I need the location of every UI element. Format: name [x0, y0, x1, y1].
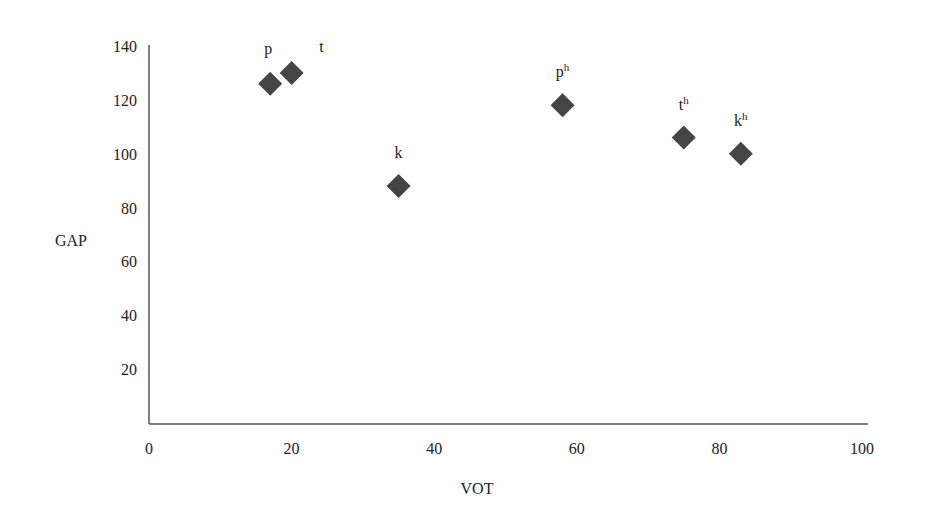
- y-tick-label: 60: [121, 253, 137, 270]
- x-tick-label: 0: [145, 440, 153, 457]
- x-tick-label: 100: [850, 440, 874, 457]
- data-points: [258, 61, 753, 198]
- x-tick-label: 60: [569, 440, 585, 457]
- point-labels: ptkphthkh: [264, 38, 748, 161]
- axes: [149, 45, 868, 424]
- y-tick-labels: 20406080100120140: [113, 38, 137, 378]
- y-tick-label: 100: [113, 146, 137, 163]
- point-label: kh: [734, 110, 748, 129]
- y-tick-label: 140: [113, 38, 137, 55]
- y-axis-label: GAP: [55, 232, 87, 249]
- y-tick-label: 20: [121, 361, 137, 378]
- diamond-marker: [387, 174, 411, 198]
- x-tick-label: 80: [711, 440, 727, 457]
- x-tick-label: 40: [426, 440, 442, 457]
- point-label: p: [264, 40, 272, 58]
- y-tick-label: 120: [113, 92, 137, 109]
- point-label: ph: [556, 61, 570, 81]
- diamond-marker: [729, 142, 753, 166]
- diamond-marker: [672, 126, 696, 150]
- point-label: th: [679, 94, 689, 113]
- point-label: k: [395, 144, 403, 161]
- y-tick-label: 80: [121, 200, 137, 217]
- x-tick-labels: 020406080100: [145, 440, 874, 457]
- diamond-marker: [258, 72, 282, 96]
- scatter-chart: 20406080100120140 020406080100 GAP VOT p…: [0, 0, 926, 527]
- x-tick-label: 20: [284, 440, 300, 457]
- point-label: t: [319, 38, 324, 55]
- diamond-marker: [551, 93, 575, 117]
- x-axis-label: VOT: [461, 480, 494, 497]
- diamond-marker: [280, 61, 304, 85]
- y-tick-label: 40: [121, 307, 137, 324]
